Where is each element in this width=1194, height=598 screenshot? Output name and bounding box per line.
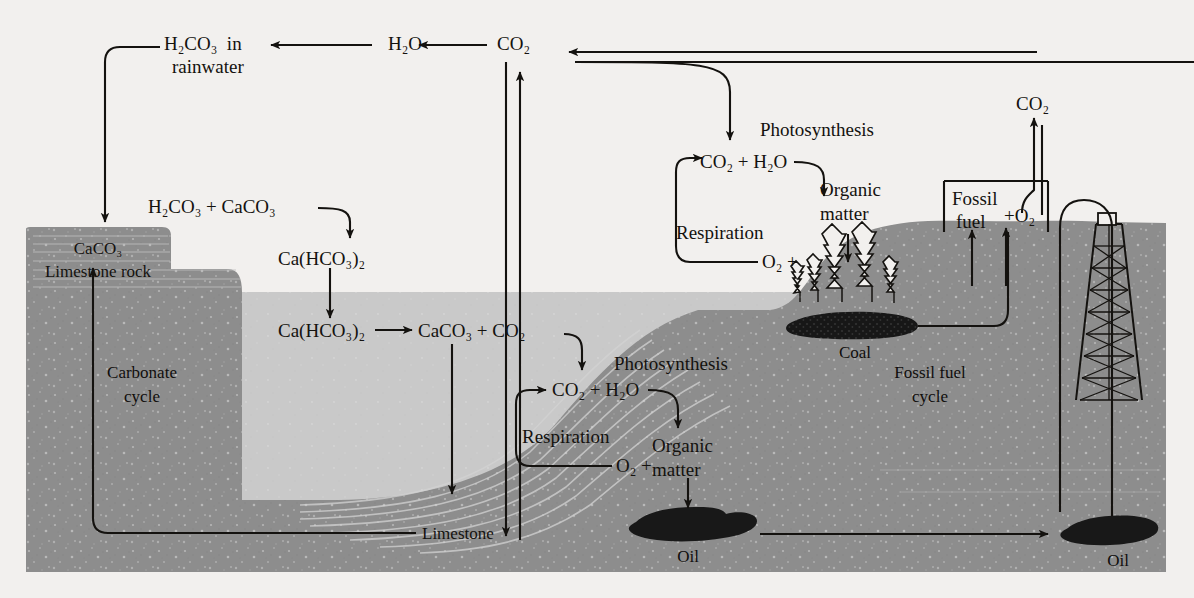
land-oxygen-label: O₂ +	[762, 251, 798, 272]
land-photosynthesis-inputs-label: CO₂ + H₂O	[700, 151, 787, 172]
combustion-oxygen-label: +O₂	[1004, 205, 1035, 226]
limestone-rock-label: Limestone rock	[45, 262, 152, 281]
land-photosynthesis-label: Photosynthesis	[760, 119, 874, 140]
ocean-organic-label-2: matter	[652, 459, 701, 480]
ocean-oxygen-label: O₂ +	[616, 455, 652, 476]
ocean-photosynthesis-inputs-label: CO₂ + H₂O	[552, 379, 639, 400]
carbonate-cycle-label-1: Carbonate	[107, 363, 177, 382]
bicarbonate-upper-label: Ca(HCO₃)₂	[278, 248, 365, 270]
combustion-co2-label: CO₂	[1016, 93, 1049, 114]
ocean-photosynthesis-label: Photosynthesis	[614, 353, 728, 374]
carbon-cycle-svg: Coal Oil Oil	[0, 0, 1194, 598]
fossil-fuel-cycle-label-1: Fossil fuel	[894, 363, 966, 382]
atmospheric-co2-label: CO₂	[497, 33, 530, 54]
carbonic-acid-rainwater-label-2: rainwater	[172, 56, 244, 77]
fossil-fuel-cycle-label-2: cycle	[912, 387, 948, 406]
land-organic-label-2: matter	[820, 203, 869, 224]
oil-ocean-label: Oil	[677, 547, 699, 566]
coal-label: Coal	[839, 343, 871, 362]
fossil-fuel-label-1: Fossil	[952, 188, 997, 209]
land-organic-label-1: Organic	[820, 179, 881, 200]
ocean-organic-label-1: Organic	[652, 435, 713, 456]
oil-land-label: Oil	[1107, 551, 1129, 570]
seafloor-limestone-label: Limestone	[422, 524, 494, 543]
weathering-reactants-label: H₂CO₃ + CaCO₃	[148, 196, 276, 217]
atmospheric-water-label: H₂O	[388, 33, 422, 54]
carbonic-acid-rainwater-label-1: H₂CO₃ in	[164, 33, 242, 54]
limestone-formula-label: CaCO₃	[74, 239, 123, 258]
land-respiration-label: Respiration	[676, 222, 764, 243]
carbonate-cycle-label-2: cycle	[124, 387, 160, 406]
bicarbonate-lower-label: Ca(HCO₃)₂	[278, 320, 365, 342]
ocean-respiration-label: Respiration	[522, 426, 610, 447]
carbonate-precipitation-label: CaCO₃ + CO₂	[418, 320, 525, 341]
fossil-fuel-label-2: fuel	[956, 211, 986, 232]
diagram-canvas: Coal Oil Oil	[0, 0, 1194, 598]
